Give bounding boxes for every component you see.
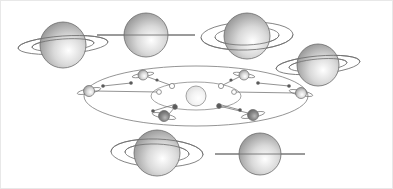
earth-marker-5 xyxy=(173,105,178,110)
sightline-4 xyxy=(234,92,296,93)
saturn-bottom-open-rings-planet xyxy=(134,130,180,176)
line-dot-4 xyxy=(256,81,260,85)
sightline-8 xyxy=(258,83,289,86)
orbit-saturn-4 xyxy=(288,85,314,101)
earth-marker-1 xyxy=(169,83,174,88)
saturn-top-right-open-rings xyxy=(201,13,294,59)
orbit-saturn-2 xyxy=(131,68,154,82)
line-dot-2 xyxy=(129,81,133,85)
earth-marker-3 xyxy=(157,90,162,95)
orbit-saturn-3-planet xyxy=(238,69,250,81)
sightline-5 xyxy=(219,106,248,113)
line-dot-6 xyxy=(238,108,242,112)
sightline-3 xyxy=(221,77,239,86)
saturn-right-open-rings xyxy=(275,44,360,86)
line-dot-8 xyxy=(229,78,232,81)
orbit-saturn-6-planet xyxy=(157,109,170,122)
line-dot-3 xyxy=(287,84,291,88)
orbit-saturn-5-planet xyxy=(246,108,259,121)
saturn-top-right-open-rings-planet xyxy=(224,13,270,59)
saturn-right-open-rings-planet xyxy=(297,44,339,86)
sun xyxy=(186,86,206,106)
sightline-1 xyxy=(94,91,159,92)
saturn-orbit-diagram xyxy=(76,66,314,126)
saturn-ring-aspect-figure xyxy=(0,0,393,189)
saturn-left-open-rings xyxy=(17,22,108,68)
line-dot-1 xyxy=(101,84,105,88)
orbit-saturn-4-planet xyxy=(294,86,307,99)
earth-marker-2 xyxy=(218,83,223,88)
saturn-top-edge-on xyxy=(97,13,195,57)
saturn-left-open-rings-planet xyxy=(40,22,86,68)
orbit-saturn-1 xyxy=(76,83,102,99)
line-dot-7 xyxy=(155,78,158,81)
sightline-2 xyxy=(148,77,173,86)
earth-marker-6 xyxy=(217,104,222,109)
diagram-canvas xyxy=(0,0,393,189)
saturn-bottom-right-edge-on xyxy=(215,133,305,175)
orbit-saturn-1-planet xyxy=(82,84,95,97)
saturn-bottom-open-rings xyxy=(111,130,204,176)
sightline-7 xyxy=(103,83,131,86)
orbit-saturn-2-planet xyxy=(137,69,149,81)
earth-marker-4 xyxy=(232,90,237,95)
